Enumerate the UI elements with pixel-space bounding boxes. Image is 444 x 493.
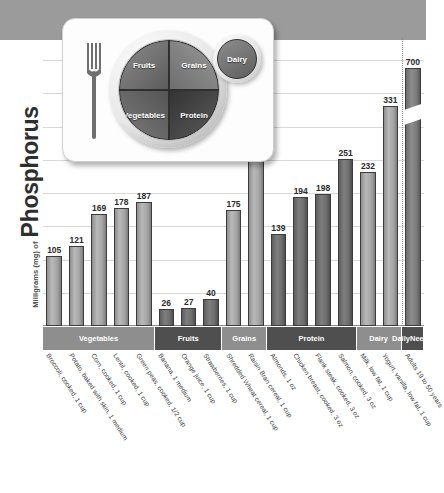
category-band-fruits: Fruits <box>155 327 222 350</box>
bar-value-label: 40 <box>197 288 225 298</box>
bar-value-label: 251 <box>332 148 360 158</box>
myplate-card: Fruits Grains Vegetables Protein Dairy <box>62 18 274 162</box>
bar-value-label: 331 <box>377 95 405 105</box>
tick-label: Raisin Bran cereal, 1 cup <box>247 352 294 419</box>
axis-break-slash <box>404 104 422 125</box>
category-band-grains: Grains <box>222 327 267 350</box>
bar[interactable] <box>91 214 107 326</box>
bar[interactable] <box>271 234 287 326</box>
bar[interactable] <box>114 208 130 326</box>
fork-icon <box>85 41 103 141</box>
daily-needs-separator <box>402 38 403 326</box>
plate-section-protein: Protein <box>169 90 219 140</box>
bar[interactable] <box>360 172 376 326</box>
plate-section-grains: Grains <box>169 40 219 90</box>
category-band: VegetablesFruitsGrainsProteinDairyDailyN… <box>43 327 424 350</box>
category-band-protein: Protein <box>267 327 357 350</box>
bar[interactable] <box>405 68 421 326</box>
bar-value-label: 175 <box>220 199 248 209</box>
bar-value-label: 139 <box>265 223 293 233</box>
y-axis-nutrient: Phosphorus <box>17 106 44 237</box>
bar[interactable] <box>293 197 309 326</box>
y-axis-prefix: Milligrams (mg) of <box>31 241 40 307</box>
bar[interactable] <box>315 194 331 326</box>
plate-section-dairy-label: Dairy <box>217 39 257 79</box>
bar[interactable] <box>248 154 264 326</box>
bar[interactable] <box>338 159 354 326</box>
plate-graphic: Fruits Grains Vegetables Protein <box>109 30 227 148</box>
bar-value-label: 105 <box>40 245 68 255</box>
category-band-vegetables: Vegetables <box>43 327 155 350</box>
bar[interactable] <box>46 256 62 326</box>
tick-label: Broccoli, cooked, 1 cup <box>45 352 89 414</box>
bar[interactable] <box>136 202 152 326</box>
bar[interactable] <box>181 308 197 326</box>
category-band-daily-needs: DailyNeeds <box>402 327 424 350</box>
bar-value-label: 198 <box>309 183 337 193</box>
bar-value-label: 121 <box>63 235 91 245</box>
bar[interactable] <box>226 210 242 326</box>
bar[interactable] <box>69 246 85 326</box>
bar-value-label: 27 <box>175 297 203 307</box>
tick-label: Flank steak, cooked, 3 oz <box>314 352 361 420</box>
plate-section-dairy-cup: Dairy <box>213 35 261 83</box>
bar[interactable] <box>203 299 219 326</box>
bar-value-label: 232 <box>354 161 382 171</box>
plate-sections: Fruits Grains Vegetables Protein <box>118 39 220 141</box>
bar-value-label: 187 <box>130 191 158 201</box>
bar-value-label: 700 <box>399 57 427 67</box>
bar[interactable] <box>159 309 175 326</box>
x-axis-tick-labels: Broccoli, cooked, 1 cupPotato, baked wit… <box>0 352 426 492</box>
plate-section-vegetables: Vegetables <box>119 90 169 140</box>
bar[interactable] <box>383 106 399 326</box>
